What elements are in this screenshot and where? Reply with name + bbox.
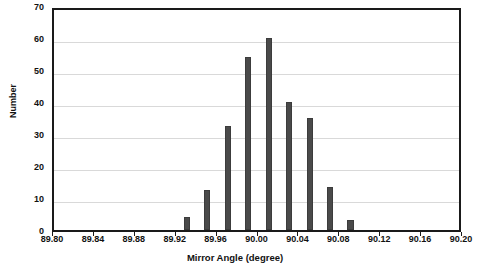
y-tick-label: 60 — [4, 34, 44, 44]
histogram-bar — [204, 190, 210, 230]
histogram-bar — [307, 118, 313, 230]
histogram-bar — [327, 187, 333, 230]
bars-layer — [54, 10, 459, 230]
plot-area — [52, 8, 461, 232]
histogram-bar — [347, 220, 353, 230]
x-tick-label: 90.20 — [431, 234, 477, 244]
y-axis-title: Number — [8, 66, 18, 136]
histogram-bar — [225, 126, 231, 230]
y-tick-label: 10 — [4, 194, 44, 204]
histogram-bar — [184, 217, 190, 230]
y-tick-label: 20 — [4, 162, 44, 172]
y-tick-label: 70 — [4, 2, 44, 12]
histogram-bar — [266, 38, 272, 230]
x-axis-labels: 89.8089.8489.8889.9289.9690.0090.0490.08… — [0, 234, 470, 250]
histogram-bar — [286, 102, 292, 230]
histogram-bar — [245, 57, 251, 230]
x-axis-title: Mirror Angle (degree) — [0, 252, 470, 263]
